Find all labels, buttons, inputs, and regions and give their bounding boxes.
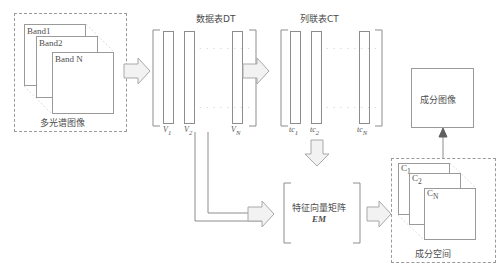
dt-dots-bottom: · · · · · · · ·	[199, 104, 251, 112]
ct-dots-top: · · · · · · · ·	[326, 45, 378, 53]
ct-column-n-label: tcN	[357, 125, 367, 136]
band-layer-2-label: Band2	[39, 38, 63, 48]
component-layer-2-label: C2	[412, 173, 422, 186]
component-layer-n-label: CN	[427, 188, 438, 201]
multispectral-caption: 多光谱图像	[40, 116, 85, 129]
ct-column-2-label: tc2	[310, 125, 319, 136]
dt-column-1-label: V1	[163, 125, 171, 136]
dt-dots-top: · · · · · · · ·	[199, 45, 251, 53]
band-layer-n-label: Band N	[55, 54, 83, 64]
component-image-caption: 成分图像	[420, 93, 456, 106]
dt-column-2-label: V2	[184, 125, 192, 136]
dt-column-n-label: VN	[231, 125, 240, 136]
em-symbol: EM	[312, 214, 326, 224]
band-layer-1-label: Band1	[27, 26, 51, 36]
dt-column-2	[184, 31, 195, 124]
ct-column-2	[311, 31, 322, 124]
em-caption: 特征向量矩阵	[292, 201, 346, 214]
dt-column-1	[163, 31, 174, 124]
ct-dots-bottom: · · · · · · · ·	[326, 104, 378, 112]
contingency-table-title: 列联表CT	[300, 12, 339, 25]
data-table-title: 数据表DT	[196, 12, 235, 25]
ct-column-1	[290, 31, 301, 124]
ct-column-1-label: tc1	[289, 125, 298, 136]
component-space-caption: 成分空间	[415, 247, 451, 260]
